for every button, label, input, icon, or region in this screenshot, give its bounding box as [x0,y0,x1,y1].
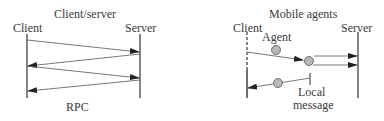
server-label: Server [125,22,156,34]
request-arrow-1 [27,40,139,52]
local-message-label-line2: message [293,99,334,111]
mobile-agents-title: Mobile agents [269,8,337,20]
client-server-diagram [27,34,140,98]
rpc-caption: RPC [66,101,89,113]
client-label-mobile: Client [233,22,262,34]
local-message-label-line1: Local [298,86,325,98]
server-label-mobile: Server [341,22,372,34]
agent-icon-at-server [305,57,314,66]
agent-icon-traveling [272,46,281,55]
request-arrow-2 [27,66,139,78]
response-arrow-1 [28,54,140,66]
client-server-title: Client/server [54,8,116,20]
response-arrow-2 [28,80,140,91]
agent-label: Agent [262,31,291,43]
agent-icon-returning [274,79,283,88]
client-label: Client [13,22,42,34]
